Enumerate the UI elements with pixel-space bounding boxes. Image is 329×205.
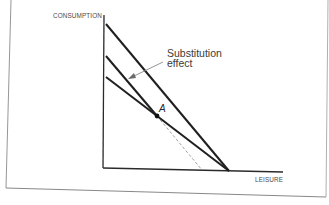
new-flat-budget-line bbox=[106, 77, 229, 171]
x-axis-label: LEISURE bbox=[255, 176, 283, 183]
frame-right-border bbox=[326, 0, 328, 197]
x-axis bbox=[103, 168, 283, 172]
budget-constraint-diagram: A Substitution effect CONSUMPTION LEISUR… bbox=[0, 0, 329, 205]
point-a-marker bbox=[155, 114, 160, 119]
y-axis-label: CONSUMPTION bbox=[53, 12, 102, 19]
frame-left-border bbox=[6, 0, 11, 188]
point-a-label: A bbox=[158, 103, 166, 114]
new-steep-budget-line bbox=[106, 56, 157, 116]
substitution-arrow-head-icon bbox=[128, 73, 136, 79]
figure-card: A Substitution effect CONSUMPTION LEISUR… bbox=[0, 0, 329, 205]
annotation-line-2: effect bbox=[167, 57, 193, 69]
frame-bottom-border bbox=[6, 188, 326, 197]
new-steep-budget-line-dashed bbox=[157, 116, 202, 170]
y-axis bbox=[103, 15, 104, 168]
